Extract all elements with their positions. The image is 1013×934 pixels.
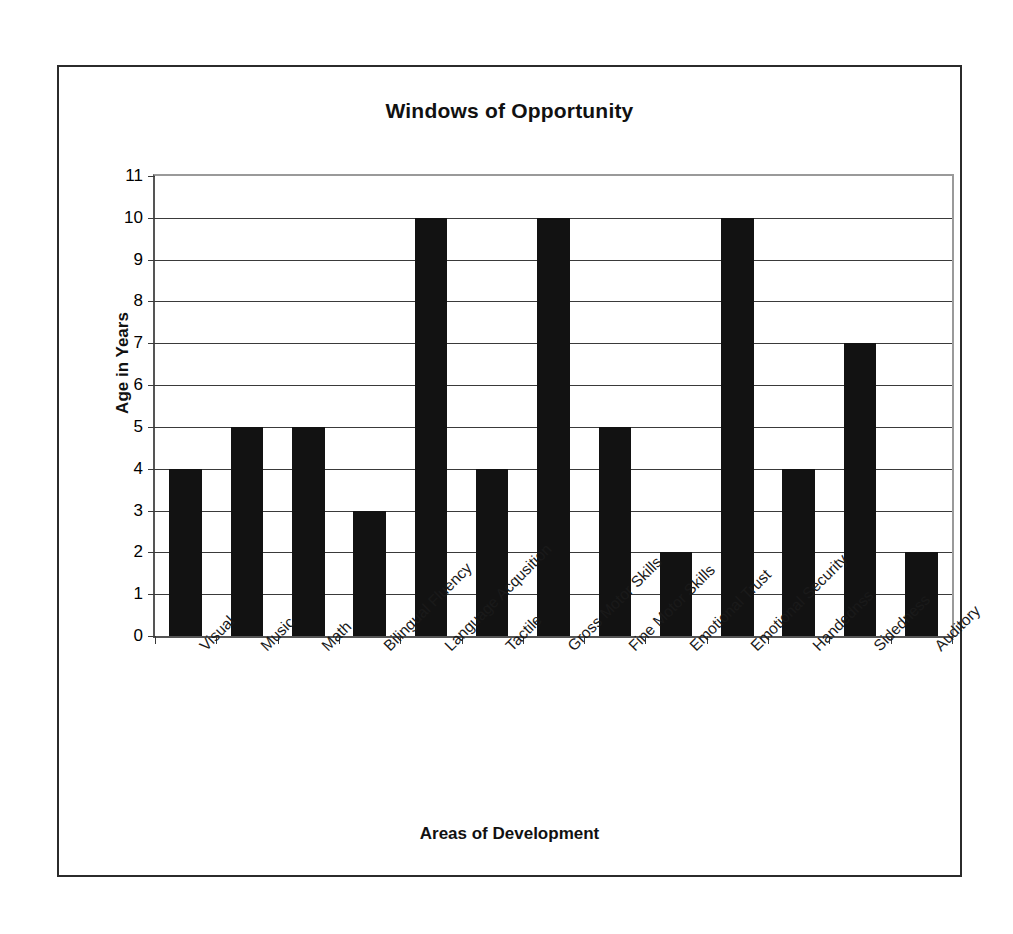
y-tick-label: 7: [134, 333, 143, 353]
x-axis-title: Areas of Development: [59, 824, 960, 844]
y-tick-label: 3: [134, 501, 143, 521]
y-tick-mark: [148, 469, 155, 470]
x-tick-label: Music: [257, 642, 270, 655]
bar: [353, 511, 385, 636]
bar: [537, 218, 569, 636]
x-tick-label: Tactile: [502, 642, 515, 655]
x-tick-label: Bilingual Fluency: [380, 642, 393, 655]
y-tick-mark: [148, 636, 155, 637]
y-axis-title: Age in Years: [113, 263, 133, 463]
y-tick-mark: [148, 385, 155, 386]
y-tick-label: 4: [134, 459, 143, 479]
y-tick-mark: [148, 427, 155, 428]
y-tick-mark: [148, 176, 155, 177]
bar: [169, 469, 201, 636]
x-tick-label: Visual: [196, 642, 209, 655]
y-tick-mark: [148, 301, 155, 302]
y-tick-label: 10: [124, 208, 143, 228]
bar: [721, 218, 753, 636]
x-axis-tick-labels: VisualMusicMathBilingual FluencyLanguage…: [153, 642, 950, 812]
y-tick-label: 9: [134, 250, 143, 270]
x-tick-label: Auditory: [931, 642, 944, 655]
x-tick-label: Language Acqusition: [441, 642, 454, 655]
y-tick-label: 2: [134, 542, 143, 562]
bar: [292, 427, 324, 636]
x-tick-label: Gross Motor Skills: [564, 642, 577, 655]
x-tick-label: Emotional Security: [747, 642, 760, 655]
x-tick-label: Sidedness: [870, 642, 883, 655]
y-tick-mark: [148, 218, 155, 219]
x-tick-label: Fine Motor Skills: [625, 642, 638, 655]
y-tick-label: 1: [134, 584, 143, 604]
chart-frame: Windows of Opportunity Age in Years 0123…: [57, 65, 962, 877]
y-tick-mark: [148, 260, 155, 261]
y-tick-mark: [148, 343, 155, 344]
y-tick-mark: [148, 511, 155, 512]
y-tick-label: 0: [134, 626, 143, 646]
x-tick-label: Math: [318, 642, 331, 655]
y-tick-label: 8: [134, 291, 143, 311]
x-tick-label: Handednss: [809, 642, 822, 655]
bar: [415, 218, 447, 636]
y-tick-label: 5: [134, 417, 143, 437]
chart-title: Windows of Opportunity: [59, 99, 960, 123]
y-tick-mark: [148, 594, 155, 595]
y-tick-label: 11: [125, 166, 143, 186]
x-tick-label: Emotional Trust: [686, 642, 699, 655]
bar: [231, 427, 263, 636]
y-tick-label: 6: [134, 375, 143, 395]
y-tick-mark: [148, 552, 155, 553]
